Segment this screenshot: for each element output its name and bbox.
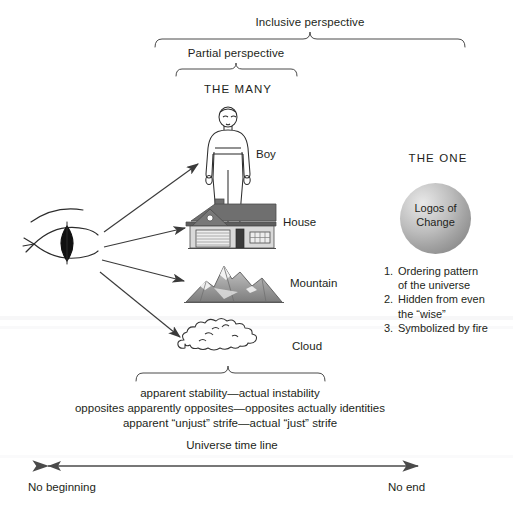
universe-timeline-arrow (48, 461, 418, 471)
label-inclusive-perspective: Inclusive perspective (256, 16, 365, 28)
list-item-line-2: the “wise” (398, 308, 446, 320)
arrow-to-mountain (102, 260, 184, 281)
eye-icon (23, 209, 98, 264)
arrow-to-house (104, 228, 185, 247)
list-item: 3. Symbolized by fire (384, 321, 512, 335)
arrow-to-boy (104, 164, 198, 232)
list-item-text: Symbolized by fire (398, 321, 488, 335)
label-no-beginning: No beginning (28, 481, 96, 493)
list-item-line-1: Hidden from even (398, 293, 485, 305)
list-item-line-1: Ordering pattern (398, 265, 478, 277)
list-item: 1. Ordering pattern of the universe (384, 264, 512, 292)
arrow-to-cloud (100, 272, 180, 337)
heading-the-one: THE ONE (409, 152, 468, 164)
summary-line-1: apparent stability—actual instability (0, 386, 460, 401)
label-no-end: No end (388, 481, 425, 493)
list-item-text: Ordering pattern of the universe (398, 264, 478, 292)
logos-attribute-list: 1. Ordering pattern of the universe 2. H… (384, 264, 512, 335)
list-item: 2. Hidden from even the “wise” (384, 292, 512, 320)
house-icon (186, 199, 276, 249)
perception-arrows (100, 164, 198, 337)
label-partial-perspective: Partial perspective (188, 47, 285, 59)
label-universe-timeline: Universe time line (186, 439, 277, 451)
summary-line-3: apparent “unjust” strife—actual “just” s… (0, 416, 460, 431)
cloud-icon (178, 319, 257, 351)
sphere-line-2: Change (400, 216, 471, 230)
brace-partial-perspective (176, 63, 297, 76)
brace-summary (136, 366, 325, 381)
summary-line-2: opposites apparently opposites—opposites… (0, 401, 460, 416)
mountain-icon (184, 266, 284, 303)
list-item-number: 1. (384, 264, 398, 292)
label-mountain: Mountain (290, 277, 337, 289)
heading-the-many: THE MANY (204, 83, 272, 95)
list-item-number: 2. (384, 292, 398, 320)
label-boy: Boy (256, 148, 276, 160)
logos-sphere-text: Logos of Change (400, 202, 471, 229)
summary-text-block: apparent stability—actual instability op… (0, 386, 460, 431)
sphere-line-1: Logos of (400, 202, 471, 216)
heraclitus-diagram (0, 0, 513, 509)
list-item-number: 3. (384, 321, 398, 335)
label-cloud: Cloud (292, 340, 322, 352)
brace-inclusive-perspective (155, 32, 465, 47)
list-item-text: Hidden from even the “wise” (398, 292, 485, 320)
list-item-line-2: of the universe (398, 279, 470, 291)
list-item-line-1: Symbolized by fire (398, 322, 488, 334)
label-house: House (283, 216, 316, 228)
